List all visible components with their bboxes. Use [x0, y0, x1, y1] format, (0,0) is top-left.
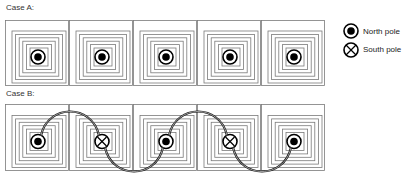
north-pole-icon [95, 50, 109, 64]
coil [198, 105, 261, 171]
south-pole-icon [223, 135, 237, 149]
legend-south-label: South pole [363, 45, 401, 54]
legend-north-icon [344, 24, 358, 38]
north-pole-icon [31, 50, 45, 64]
coil [198, 21, 261, 86]
coil [134, 21, 197, 86]
coil [6, 21, 69, 86]
coil-array-diagram [0, 0, 411, 179]
north-pole-icon [287, 135, 301, 149]
coil [262, 21, 325, 86]
north-pole-icon [223, 50, 237, 64]
legend-north-label: North pole [363, 27, 400, 36]
coil [70, 105, 133, 171]
north-pole-icon [287, 50, 301, 64]
north-pole-icon [31, 135, 45, 149]
coil [262, 105, 325, 171]
north-pole-icon [159, 135, 173, 149]
legend-south-icon [344, 43, 358, 57]
south-pole-icon [95, 135, 109, 149]
north-pole-icon [159, 50, 173, 64]
coil [70, 21, 133, 86]
